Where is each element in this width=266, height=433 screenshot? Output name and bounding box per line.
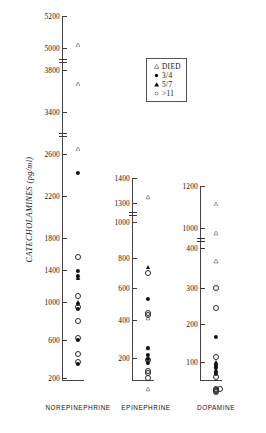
y-axis-tick-label: 200 (186, 320, 198, 329)
axis-foot (200, 380, 222, 381)
y-axis-tick-label: 1000 (182, 224, 198, 233)
y-axis-tick-label: 400 (186, 244, 198, 253)
y-axis-tick (200, 186, 205, 187)
data-point-open-circle (213, 389, 219, 395)
data-point-open-circle (213, 305, 219, 311)
category-label-dopamine: DOPAMINE (197, 404, 235, 411)
axis-break-mark (197, 238, 205, 239)
data-point-open-triangle (213, 222, 218, 227)
y-axis-tick (200, 228, 205, 229)
data-point-open-triangle (213, 192, 218, 197)
y-axis-tick-label: 300 (186, 284, 198, 293)
y-axis-spine (200, 186, 201, 380)
legend-item-label: DIED (162, 62, 181, 71)
legend-item: >11 (151, 89, 181, 98)
data-point-open-triangle (213, 250, 218, 255)
legend-item-label: 3/4 (162, 71, 172, 80)
y-axis-tick-label: 100 (186, 358, 198, 367)
legend-item-label: >11 (162, 89, 174, 98)
data-point-open-circle (213, 374, 219, 380)
y-axis-tick (200, 288, 205, 289)
y-axis-tick (200, 362, 205, 363)
chart-legend: DIED3/45/7>11 (146, 58, 187, 102)
legend-open-circle-icon (151, 91, 162, 96)
legend-item: DIED (151, 62, 181, 71)
axis-break-mark (197, 241, 205, 242)
legend-item: 3/4 (151, 71, 181, 80)
data-point-open-circle (213, 285, 219, 291)
data-point-filled-circle (214, 335, 218, 339)
legend-item-label: 5/7 (162, 80, 172, 89)
panel-dopamine: 12001000400300200100DOPAMINE (0, 0, 266, 433)
legend-filled-circle-icon (151, 73, 162, 78)
legend-open-triangle-icon (151, 64, 162, 69)
y-axis-tick (200, 324, 205, 325)
legend-filled-triangle-icon (151, 82, 162, 87)
y-axis-tick (200, 248, 205, 249)
legend-item: 5/7 (151, 80, 181, 89)
catecholamines-dot-plot-figure: CATECHOLAMINES (pg/ml) 52005000380034002… (0, 0, 266, 433)
y-axis-tick-label: 1200 (182, 182, 198, 191)
